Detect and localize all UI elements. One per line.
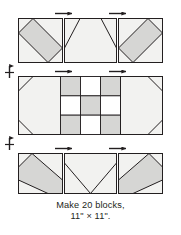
- patch-r2c1: [61, 96, 81, 115]
- caption-line-1: Make 20 blocks,: [0, 200, 181, 211]
- top-left-unit: [19, 19, 63, 63]
- patch-r2c3: [101, 96, 121, 115]
- top-row-group: [19, 14, 163, 63]
- patch-r1c3: [101, 77, 121, 96]
- nine-patch-center: [61, 77, 121, 135]
- figure-caption: Make 20 blocks, 11" × 11".: [0, 200, 181, 223]
- patch-r3c2: [81, 115, 101, 134]
- patch-r3c1: [61, 115, 81, 134]
- block-assembly-illustration: [0, 0, 181, 200]
- bottom-center-unit: [65, 154, 117, 194]
- bottom-left-unit: [19, 154, 63, 194]
- caption-line-2: 11" × 11".: [0, 211, 181, 222]
- middle-right-unit: [121, 77, 163, 135]
- middle-left-unit: [19, 77, 61, 135]
- patch-r1c1: [61, 77, 81, 96]
- bottom-row-group: [19, 149, 163, 194]
- top-right-unit: [119, 19, 163, 63]
- patch-r3c3: [101, 115, 121, 134]
- patch-r1c2: [81, 77, 101, 96]
- seam-arrow-row-gap-upper: [5, 66, 14, 78]
- middle-row-group: [19, 72, 163, 135]
- seam-arrow-row-gap-lower: [5, 138, 14, 150]
- bottom-right-unit: [119, 154, 163, 194]
- unit-background: [65, 154, 117, 194]
- quilt-block-diagram: Make 20 blocks, 11" × 11".: [0, 0, 181, 235]
- top-center-unit: [65, 19, 117, 63]
- patch-r2c2: [81, 96, 101, 115]
